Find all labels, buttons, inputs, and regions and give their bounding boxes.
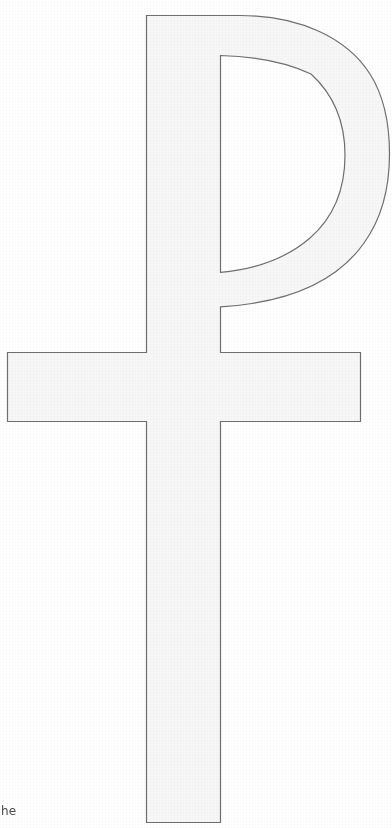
- staurogram-figure: [0, 0, 392, 828]
- staurogram-outline-path: [8, 16, 390, 823]
- staurogram-svg: [0, 0, 392, 828]
- page-sheet: he: [0, 0, 392, 828]
- page-text-fragment: he: [1, 805, 16, 818]
